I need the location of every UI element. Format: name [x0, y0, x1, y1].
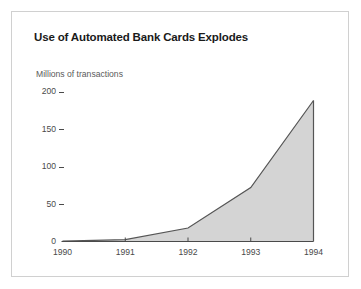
- plot-area: 050100150200 19901991199219931994: [0, 0, 361, 289]
- series-area-fill: [63, 101, 314, 242]
- area-chart-plot: [0, 0, 361, 289]
- figure-root: Use of Automated Bank Cards Explodes Mil…: [0, 0, 361, 289]
